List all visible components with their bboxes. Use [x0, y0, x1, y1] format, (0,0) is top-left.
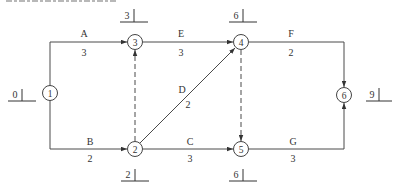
activity-f: F 2 [249, 28, 344, 87]
activity-e: E 3 [143, 28, 233, 58]
node-4-label: 4 [239, 38, 244, 48]
time-value-node-4: 6 [234, 10, 239, 21]
node-1-label: 1 [48, 89, 53, 99]
activity-d: D 2 [140, 48, 235, 143]
activity-c-duration: 3 [188, 153, 193, 164]
node-3-label: 3 [133, 38, 138, 48]
activity-f-duration: 2 [289, 47, 294, 58]
node-6-label: 6 [342, 91, 347, 101]
activity-a-name: A [80, 28, 88, 39]
time-value-node-3: 3 [125, 10, 130, 21]
activity-d-duration: 2 [186, 99, 191, 110]
time-bracket-node-3: 3 [120, 9, 148, 22]
node-4: 4 [234, 35, 249, 50]
activity-g-duration: 3 [291, 153, 296, 164]
activity-e-name: E [178, 28, 184, 39]
activity-e-duration: 3 [179, 47, 184, 58]
node-2-label: 2 [133, 145, 138, 155]
activity-f-name: F [288, 28, 294, 39]
node-1: 1 [43, 86, 58, 101]
activity-a: A 3 [50, 28, 127, 86]
activity-c: C 3 [143, 136, 233, 164]
time-bracket-node-2: 2 [121, 169, 149, 181]
node-2: 2 [128, 142, 143, 157]
time-value-node-1: 0 [13, 89, 18, 100]
node-6: 6 [337, 88, 352, 103]
node-5: 5 [234, 142, 249, 157]
node-3: 3 [128, 35, 143, 50]
time-value-node-6: 9 [370, 89, 375, 100]
time-bracket-node-6: 9 [366, 88, 392, 101]
time-bracket-node-4: 6 [229, 9, 257, 22]
activity-b: B 2 [50, 100, 127, 164]
activity-d-name: D [178, 84, 185, 95]
time-bracket-node-5: 6 [229, 169, 257, 181]
activity-b-name: B [87, 136, 94, 147]
time-value-node-5: 6 [234, 169, 239, 180]
activity-g: G 3 [249, 103, 344, 164]
network-diagram: A 3 B 2 E 3 D 2 C 3 F 2 G 3 [0, 0, 396, 187]
activity-b-duration: 2 [88, 153, 93, 164]
node-5-label: 5 [239, 145, 244, 155]
activity-g-name: G [289, 136, 296, 147]
activity-c-name: C [187, 136, 194, 147]
time-bracket-node-1: 0 [8, 89, 36, 101]
activity-a-duration: 3 [82, 47, 87, 58]
time-value-node-2: 2 [126, 169, 131, 180]
